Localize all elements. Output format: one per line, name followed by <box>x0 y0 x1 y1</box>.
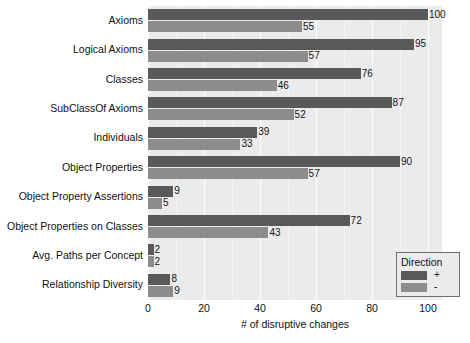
bar-value-label: 9 <box>173 286 180 296</box>
x-axis-ticks: 020406080100 <box>148 302 442 318</box>
bar-value-label: 46 <box>277 81 289 91</box>
bar[interactable] <box>148 80 277 91</box>
y-axis-label: Relationship Diversity <box>42 279 143 290</box>
bar[interactable] <box>148 39 414 50</box>
bar-group: 55 <box>148 21 442 32</box>
bar[interactable] <box>148 227 268 238</box>
bar[interactable] <box>148 274 170 285</box>
legend-label-plus: + <box>434 270 440 280</box>
bar-value-label: 2 <box>154 257 161 267</box>
y-axis-label: Classes <box>106 74 143 85</box>
bar-value-label: 90 <box>400 157 412 167</box>
bar-value-label: 72 <box>350 216 362 226</box>
bar-value-label: 55 <box>302 22 314 32</box>
bar-group: 57 <box>148 168 442 179</box>
bar-value-label: 2 <box>154 245 161 255</box>
x-axis-tick-label: 60 <box>310 302 322 314</box>
bar[interactable] <box>148 51 308 62</box>
bar-value-label: 5 <box>162 198 169 208</box>
legend: Direction + - <box>396 252 460 297</box>
y-axis-label: Object Property Assertions <box>19 191 143 202</box>
x-axis-tick-label: 80 <box>366 302 378 314</box>
bar-value-label: 8 <box>170 274 177 284</box>
bar[interactable] <box>148 127 257 138</box>
x-axis-title: # of disruptive changes <box>148 318 442 330</box>
bar-group: 9 <box>148 186 442 197</box>
x-axis-tick-label: 40 <box>254 302 266 314</box>
bar[interactable] <box>148 286 173 297</box>
bar-value-label: 52 <box>294 110 306 120</box>
bar-group: 100 <box>148 9 442 20</box>
bar-group: 33 <box>148 139 442 150</box>
bar[interactable] <box>148 9 428 20</box>
legend-entry-minus[interactable]: - <box>401 282 455 292</box>
bar-value-label: 95 <box>414 39 426 49</box>
y-axis-label: Object Properties on Classes <box>7 221 143 232</box>
bar-group: 57 <box>148 51 442 62</box>
bar-group: 39 <box>148 127 442 138</box>
bar-group: 95 <box>148 39 442 50</box>
bar[interactable] <box>148 198 162 209</box>
y-axis-labels: AxiomsLogical AxiomsClassesSubClassOf Ax… <box>0 0 145 343</box>
bar-group: 46 <box>148 80 442 91</box>
bar[interactable] <box>148 168 308 179</box>
bar-group: 87 <box>148 97 442 108</box>
legend-swatch-minus <box>401 283 427 292</box>
bar-value-label: 76 <box>361 69 373 79</box>
y-axis-label: Axioms <box>109 15 143 26</box>
bar-value-label: 57 <box>308 169 320 179</box>
x-axis-tick-label: 20 <box>198 302 210 314</box>
bar-value-label: 33 <box>240 139 252 149</box>
bar[interactable] <box>148 156 400 167</box>
bar-group: 52 <box>148 109 442 120</box>
bar[interactable] <box>148 186 173 197</box>
bar[interactable] <box>148 139 240 150</box>
bar[interactable] <box>148 109 294 120</box>
bar-chart: 10055955776468752393390579572432289 Axio… <box>0 0 470 343</box>
bar-value-label: 39 <box>257 127 269 137</box>
legend-label-minus: - <box>434 282 437 292</box>
bar-group: 72 <box>148 215 442 226</box>
legend-swatch-plus <box>401 271 427 280</box>
legend-entry-plus[interactable]: + <box>401 270 455 280</box>
bar[interactable] <box>148 97 392 108</box>
y-axis-label: Individuals <box>93 132 143 143</box>
x-axis-tick-label: 0 <box>145 302 151 314</box>
y-axis-label: Object Properties <box>62 162 143 173</box>
bar[interactable] <box>148 68 361 79</box>
bar-value-label: 43 <box>268 228 280 238</box>
bar-group: 76 <box>148 68 442 79</box>
bar-value-label: 9 <box>173 186 180 196</box>
bar-value-label: 57 <box>308 51 320 61</box>
legend-title: Direction <box>401 256 455 268</box>
y-axis-label: Logical Axioms <box>73 44 143 55</box>
bar-group: 5 <box>148 198 442 209</box>
y-axis-label: Avg. Paths per Concept <box>32 250 143 261</box>
bar-group: 90 <box>148 156 442 167</box>
bar[interactable] <box>148 21 302 32</box>
bar-value-label: 100 <box>428 10 446 20</box>
y-axis-label: SubClassOf Axioms <box>50 103 143 114</box>
bar[interactable] <box>148 215 350 226</box>
bar-value-label: 87 <box>392 98 404 108</box>
bar-group: 43 <box>148 227 442 238</box>
x-axis-tick-label: 100 <box>419 302 437 314</box>
